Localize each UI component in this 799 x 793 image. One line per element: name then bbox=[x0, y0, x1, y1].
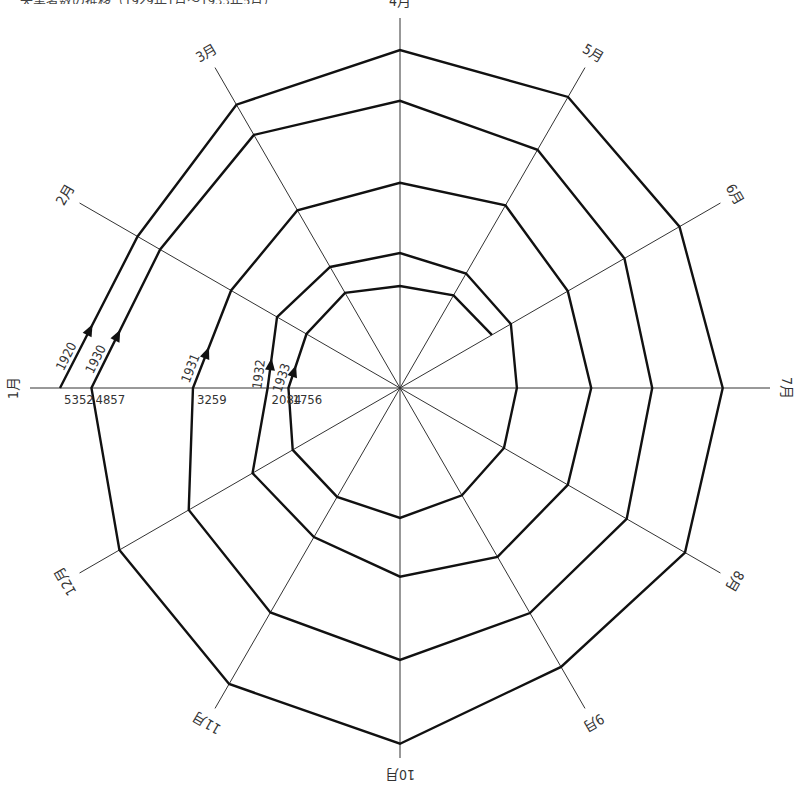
spoke-5 bbox=[400, 68, 585, 388]
month-label: 11月 bbox=[189, 709, 223, 738]
start-value-label: 1756 bbox=[292, 392, 322, 407]
spoke-2 bbox=[80, 203, 400, 388]
month-label: 4月 bbox=[389, 0, 411, 9]
month-label: 1月 bbox=[5, 377, 21, 399]
spoke-3 bbox=[215, 68, 400, 388]
month-label: 2月 bbox=[52, 181, 77, 208]
month-label: 5月 bbox=[580, 40, 607, 65]
year-spiral-lines bbox=[60, 50, 723, 744]
month-label: 12月 bbox=[50, 564, 79, 598]
spoke-8 bbox=[400, 388, 720, 573]
spoke-11 bbox=[215, 388, 400, 708]
month-label: 6月 bbox=[723, 181, 748, 208]
year-label: 1931 bbox=[178, 352, 203, 385]
month-label: 7月 bbox=[779, 377, 795, 399]
month-label: 10月 bbox=[385, 767, 415, 783]
start-value-label: 4857 bbox=[95, 392, 125, 407]
month-label: 9月 bbox=[580, 711, 607, 736]
month-label: 8月 bbox=[723, 568, 748, 595]
start-value-label: 5352 bbox=[64, 392, 94, 407]
year-label: 1932 bbox=[249, 359, 268, 390]
year-labels: 19201930193119321933 bbox=[53, 340, 294, 395]
month-label: 3月 bbox=[193, 40, 220, 65]
spoke-9 bbox=[400, 388, 585, 708]
spoke-12 bbox=[80, 388, 400, 573]
month-spokes bbox=[30, 18, 770, 758]
spiral-radar-chart: 1月2月3月4月5月6月7月8月9月10月11月12月 192019301931… bbox=[0, 0, 799, 793]
start-value-label: 3259 bbox=[197, 392, 227, 407]
spiral-line bbox=[60, 50, 723, 744]
